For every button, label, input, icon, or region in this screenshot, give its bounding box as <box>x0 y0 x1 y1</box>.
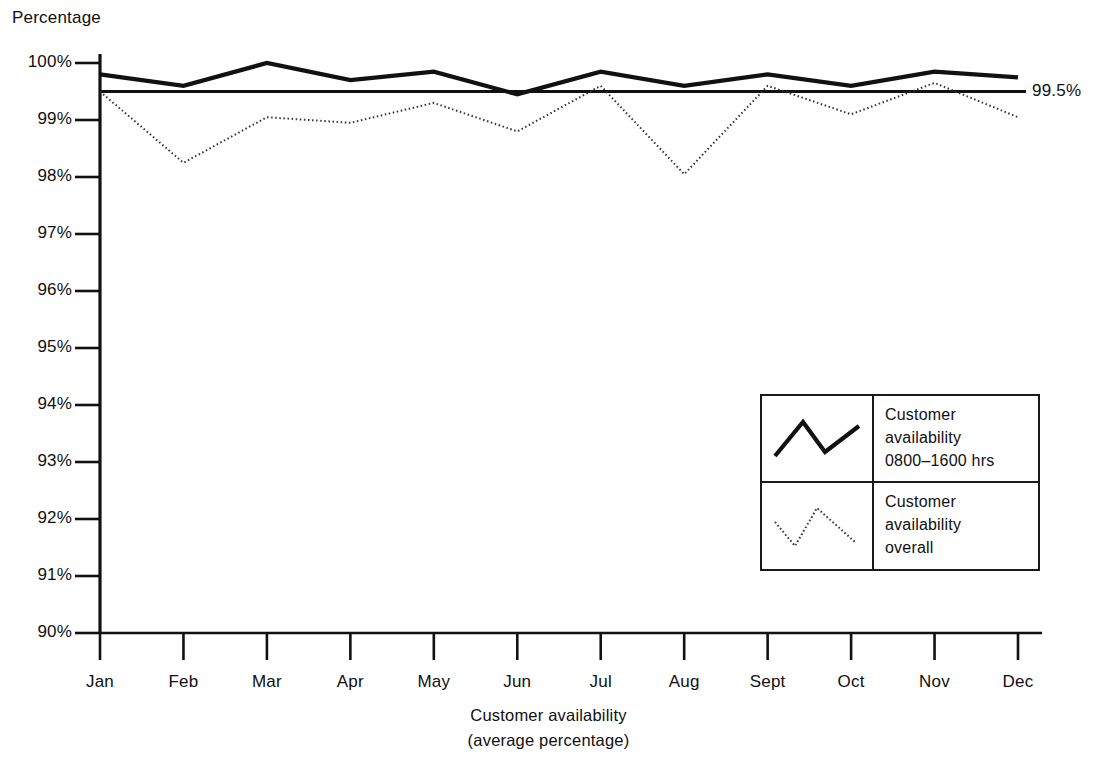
y-tick-label-95: 95% <box>0 337 72 357</box>
x-tick-label-apr: Apr <box>305 672 395 692</box>
legend-label-line3: 0800–1600 hrs <box>885 449 1038 472</box>
y-tick-label-98: 98% <box>0 166 72 186</box>
legend-label-line1: Customer <box>885 403 1038 426</box>
chart-plot-area <box>0 0 1097 781</box>
solid-zigzag-icon <box>769 412 865 464</box>
y-tick-label-93: 93% <box>0 451 72 471</box>
y-tick-label-97: 97% <box>0 223 72 243</box>
legend-entry-overall: Customer availability overall <box>762 483 1038 570</box>
x-tick-label-feb: Feb <box>138 672 228 692</box>
legend-label-line1: Customer <box>885 490 1038 513</box>
legend-label-overall: Customer availability overall <box>874 483 1038 570</box>
x-tick-label-sept: Sept <box>723 672 813 692</box>
y-tick-label-92: 92% <box>0 508 72 528</box>
legend-label-0800-1600: Customer availability 0800–1600 hrs <box>874 396 1038 481</box>
y-tick-label-94: 94% <box>0 394 72 414</box>
y-tick-label-90: 90% <box>0 622 72 642</box>
legend-swatch-solid-line <box>762 396 874 481</box>
x-tick-label-aug: Aug <box>639 672 729 692</box>
y-tick-label-100: 100% <box>0 52 72 72</box>
x-tick-label-jul: Jul <box>556 672 646 692</box>
x-tick-label-jan: Jan <box>55 672 145 692</box>
x-axis-caption: Customer availability (average percentag… <box>0 703 1097 753</box>
legend-label-line2: availability <box>885 513 1038 536</box>
legend-label-line3: overall <box>885 536 1038 559</box>
y-tick-label-99: 99% <box>0 109 72 129</box>
legend-label-line2: availability <box>885 426 1038 449</box>
dotted-zigzag-icon <box>769 500 865 552</box>
y-tick-label-91: 91% <box>0 565 72 585</box>
series-line-overall <box>100 83 1018 174</box>
y-tick-label-96: 96% <box>0 280 72 300</box>
x-tick-label-oct: Oct <box>806 672 896 692</box>
x-tick-label-nov: Nov <box>890 672 980 692</box>
series-line-0800-1600 <box>100 63 1018 94</box>
legend-entry-0800-1600: Customer availability 0800–1600 hrs <box>762 396 1038 483</box>
chart-legend: Customer availability 0800–1600 hrs Cust… <box>760 394 1040 571</box>
legend-swatch-dotted-line <box>762 483 874 570</box>
x-tick-label-jun: Jun <box>472 672 562 692</box>
x-tick-label-mar: Mar <box>222 672 312 692</box>
reference-line-label: 99.5% <box>1032 81 1081 101</box>
x-axis-caption-line1: Customer availability <box>0 703 1097 728</box>
x-tick-label-dec: Dec <box>973 672 1063 692</box>
chart-container: Percentage 100%99%98%97%96%95%94%93%92%9… <box>0 0 1097 781</box>
x-axis-caption-line2: (average percentage) <box>0 728 1097 753</box>
x-tick-label-may: May <box>389 672 479 692</box>
